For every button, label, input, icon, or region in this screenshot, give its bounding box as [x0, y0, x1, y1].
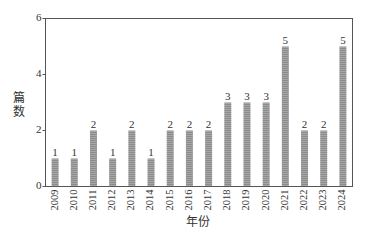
bar-chart: 1121212223335225 0246 200920102011201220… — [0, 0, 366, 240]
bar-2022 — [301, 131, 308, 187]
bar-value-label: 1 — [52, 146, 58, 158]
bar-2009 — [52, 159, 59, 187]
x-tick-label: 2022 — [298, 190, 309, 211]
bar-2023 — [320, 131, 327, 187]
bar-2017 — [205, 131, 212, 187]
x-tick-label: 2021 — [279, 190, 290, 211]
bar-2015 — [167, 131, 174, 187]
bar-2012 — [109, 159, 116, 187]
y-axis: 0246 — [36, 11, 46, 191]
bar-value-label: 3 — [263, 90, 269, 102]
x-tick-label: 2010 — [68, 190, 79, 211]
bar-value-label: 2 — [302, 118, 308, 130]
bar-2013 — [128, 131, 135, 187]
bar-value-label: 3 — [244, 90, 250, 102]
x-tick-label: 2016 — [183, 190, 194, 211]
bar-2010 — [71, 159, 78, 187]
y-axis-title-char: 数 — [13, 104, 25, 119]
bar-value-label: 1 — [148, 146, 154, 158]
bar-value-label: 2 — [91, 118, 97, 130]
y-tick-label: 4 — [36, 67, 42, 79]
x-tick-label: 2020 — [260, 190, 271, 211]
bar-value-label: 5 — [340, 34, 346, 46]
bars-group — [52, 47, 347, 187]
bar-value-label: 2 — [321, 118, 327, 130]
x-tick-label: 2014 — [144, 189, 155, 211]
bar-2016 — [186, 131, 193, 187]
x-axis-title: 年份 — [186, 215, 210, 229]
y-tick-label: 6 — [36, 11, 42, 23]
y-tick-label: 0 — [36, 179, 42, 191]
y-axis-title: 篇数 — [13, 90, 25, 119]
x-tick-label: 2017 — [202, 190, 213, 211]
x-tick-label: 2013 — [125, 190, 136, 211]
bar-value-label: 2 — [129, 118, 135, 130]
x-tick-label: 2011 — [87, 190, 98, 211]
x-tick-label: 2024 — [336, 189, 347, 211]
bar-2021 — [282, 47, 289, 187]
bar-2019 — [243, 103, 250, 187]
bar-2024 — [339, 47, 346, 187]
bar-2014 — [148, 159, 155, 187]
bar-value-label: 1 — [72, 146, 78, 158]
bar-value-label: 5 — [283, 34, 289, 46]
y-axis-title-char: 篇 — [13, 90, 25, 105]
y-tick-label: 2 — [36, 123, 42, 135]
x-tick-label: 2012 — [106, 190, 117, 211]
x-tick-label: 2009 — [49, 190, 60, 211]
bar-value-label: 3 — [225, 90, 231, 102]
x-tick-label: 2018 — [221, 190, 232, 211]
bar-2018 — [224, 103, 231, 187]
bar-2020 — [263, 103, 270, 187]
bar-value-label: 2 — [167, 118, 173, 130]
x-tick-label: 2023 — [317, 190, 328, 211]
bar-value-label: 2 — [187, 118, 193, 130]
bar-value-label: 2 — [206, 118, 212, 130]
bar-value-label: 1 — [110, 146, 116, 158]
x-axis: 2009201020112012201320142015201620172018… — [49, 189, 348, 211]
x-tick-label: 2015 — [164, 190, 175, 211]
x-tick-label: 2019 — [240, 190, 251, 211]
bar-2011 — [90, 131, 97, 187]
